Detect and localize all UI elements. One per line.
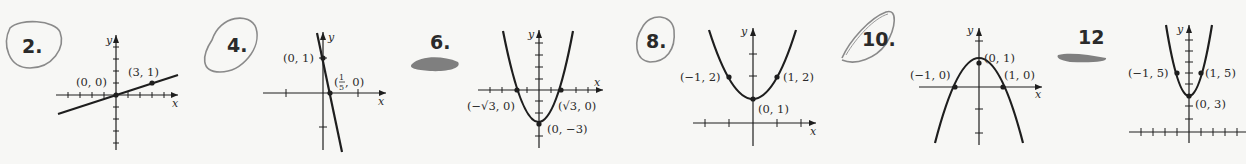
problem-number: 12 [1078,26,1104,48]
svg-text:5: 5 [339,83,344,92]
point-marker [1198,70,1203,75]
point-marker [774,74,779,79]
point-marker [726,74,731,79]
point-label: (0, 1) [758,102,789,116]
problem-number: 10. [862,28,896,50]
point-marker [113,92,118,97]
axis-label-y: y [966,24,974,37]
axis-label-x: x [594,76,601,89]
point-label: (−1, 5) [1128,66,1169,80]
problem-number: 4. [227,34,247,56]
point-label: (−√3, 0) [467,99,515,113]
point-label: (√3, 0) [558,99,596,113]
y-arrow-icon [1186,25,1192,33]
point-label: (3, 1) [128,65,159,79]
point-label: (1, 2) [783,70,814,84]
point-label: (1, 0) [1004,68,1035,82]
point-marker [558,87,563,92]
point-label: (1, 5) [1205,66,1236,80]
axis-label-x: x [810,125,817,138]
point-label: (−1, 0) [910,68,951,82]
problem-number: 2. [22,35,42,57]
problem-4-graph: (0, 1) ( 1 5 , 0) x y [190,0,410,164]
point-marker [327,90,332,95]
svg-text:(: ( [334,75,339,89]
axis-label-y: y [740,25,748,38]
y-arrow-icon [536,30,542,38]
problem-12-graph: (−1, 5) (1, 5) (0, 3) y [1040,0,1246,164]
problem-8: (−1, 2) (1, 2) (0, 1) x y 8. [620,0,840,164]
point-label: (−1, 2) [680,70,721,84]
point-label: (0, 3) [1195,97,1226,111]
point-marker [750,96,755,101]
problem-6: (−√3, 0) (√3, 0) (0, −3) x y 6. [400,0,630,164]
problem-8-graph: (−1, 2) (1, 2) (0, 1) x y [620,0,840,164]
problem-2: (0, 0) (3, 1) x y 2. [0,0,200,164]
point-marker [536,121,541,126]
point-marker [1000,84,1005,89]
problem-12: (−1, 5) (1, 5) (0, 3) y 12 [1040,0,1246,164]
point-marker [149,80,154,85]
point-label: (0, 0) [76,75,107,89]
problem-6-graph: (−√3, 0) (√3, 0) (0, −3) x y [400,0,630,164]
y-arrow-icon [320,32,326,40]
y-arrow-icon [976,28,982,36]
point-label-fraction: ( 1 5 , 0) [334,73,364,92]
y-arrow-icon [113,35,119,43]
point-label: (0, 1) [984,51,1015,65]
point-marker [952,84,957,89]
y-arrow-icon [750,28,756,36]
problem-number: 8. [646,30,666,52]
axis-label-x: x [378,95,385,108]
axis-label-x: x [172,97,179,110]
point-label: (0, −3) [547,122,588,136]
axis-label-y: y [527,28,535,41]
pencil-scribble-icon [1058,54,1107,63]
point-label: (0, 1) [283,51,314,65]
svg-text:, 0): , 0) [345,75,364,89]
problem-4: (0, 1) ( 1 5 , 0) x y 4. [190,0,410,164]
point-marker [514,87,519,92]
point-marker [1174,70,1179,75]
point-marker [1186,93,1191,98]
point-marker [976,60,981,65]
axis-label-y: y [1176,23,1184,36]
point-marker [320,55,325,60]
problem-10-graph: (0, 1) (−1, 0) (1, 0) x y [840,0,1060,164]
problem-2-graph: (0, 0) (3, 1) x y [0,0,200,164]
axis-label-y: y [327,31,335,44]
svg-text:1: 1 [339,73,344,82]
problem-10: (0, 1) (−1, 0) (1, 0) x y 10. [840,0,1060,164]
pencil-scribble-icon [411,57,459,71]
problem-number: 6. [430,31,450,53]
axis-label-y: y [105,34,113,47]
